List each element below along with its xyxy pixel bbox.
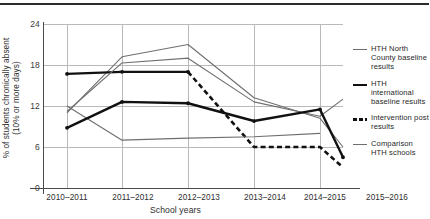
legend-swatch-thick-icon — [352, 79, 368, 91]
data-point — [341, 155, 345, 159]
legend-swatch-thin2-icon — [352, 139, 368, 151]
data-point — [318, 108, 322, 112]
legend-item-hth-international: HTH international baseline results — [352, 79, 430, 107]
series-line-5 — [67, 102, 343, 157]
legend-swatch-thin-icon — [352, 44, 368, 56]
legend-item-comparison-hth: Comparison HTH schools — [352, 139, 430, 157]
legend-label-hth-north-county: HTH North County baseline results — [371, 44, 430, 72]
data-point — [186, 101, 190, 105]
legend: HTH North County baseline results HTH in… — [352, 44, 430, 164]
data-point — [65, 126, 69, 130]
legend-label-intervention-post: Intervention post results — [371, 113, 430, 131]
data-point — [120, 100, 124, 104]
legend-label-hth-international: HTH international baseline results — [371, 79, 430, 107]
data-point — [65, 72, 69, 76]
legend-label-comparison-hth: Comparison HTH schools — [371, 139, 430, 157]
legend-item-hth-north-county: HTH North County baseline results — [352, 44, 430, 72]
legend-item-intervention-post: Intervention post results — [352, 113, 430, 131]
legend-swatch-dashed-icon — [352, 113, 368, 125]
data-point — [120, 70, 124, 74]
series-line-1 — [67, 72, 188, 74]
data-point — [252, 119, 256, 123]
